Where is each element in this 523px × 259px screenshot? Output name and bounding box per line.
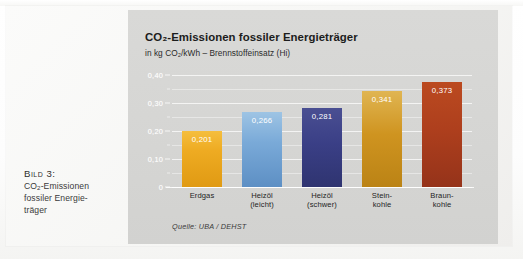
category-label-line: Heizöl — [234, 191, 290, 200]
x-axis-category-label: Stein-kohle — [354, 191, 410, 209]
category-label-line: kohle — [354, 200, 410, 209]
bar-value-label: 0,281 — [302, 112, 342, 121]
bar-fill: 0,341 — [362, 91, 402, 187]
y-axis-tick-label: 0,40 — [148, 70, 163, 79]
bar: 0,201 — [182, 131, 222, 187]
bar-fill: 0,201 — [182, 131, 222, 187]
bar-series: 0,2010,2660,2810,3410,373 — [172, 69, 472, 187]
category-label-line: Braun- — [414, 191, 470, 200]
x-axis-category-label: Heizöl(leicht) — [234, 191, 290, 209]
y-axis-tick-mark — [165, 102, 170, 103]
bar-value-label: 0,201 — [182, 135, 222, 144]
bar: 0,341 — [362, 91, 402, 187]
figure-caption-heading: Bild 3: — [24, 168, 128, 180]
y-axis-tick-label: 0,30 — [148, 98, 163, 107]
y-axis-tick-mark-minor — [167, 88, 170, 89]
y-axis-tick-label: 0,20 — [148, 126, 163, 135]
figure-caption-line-1: CO2-Emissionen — [24, 181, 128, 194]
category-label-line: (leicht) — [234, 200, 290, 209]
bar: 0,266 — [242, 112, 282, 187]
bar-fill: 0,266 — [242, 112, 282, 187]
chart-title: CO₂-Emissionen fossiler Energieträger — [145, 31, 358, 43]
category-label-line: Heizöl — [294, 191, 350, 200]
bar-value-label: 0,341 — [362, 95, 402, 104]
bar: 0,281 — [302, 108, 342, 187]
y-axis-tick-mark — [165, 158, 170, 159]
scanned-page: Bild 3: CO2-Emissionen fossiler Energie-… — [0, 0, 523, 259]
y-axis-tick-label: 0,10 — [148, 154, 163, 163]
category-label-line: Erdgas — [174, 191, 230, 200]
bar-fill: 0,281 — [302, 108, 342, 187]
bar: 0,373 — [422, 82, 462, 187]
x-axis-category-label: Braun-kohle — [414, 191, 470, 209]
caption-co-text: CO — [24, 181, 37, 191]
y-axis-tick-mark-minor — [167, 144, 170, 145]
y-axis: 00,100,200,300,40 — [128, 69, 170, 187]
category-label-line: kohle — [414, 200, 470, 209]
caption-emissionen-text: -Emissionen — [41, 181, 89, 191]
x-axis-categories: ErdgasHeizöl(leicht)Heizöl(schwer)Stein-… — [172, 191, 472, 219]
y-axis-tick-mark — [165, 74, 170, 75]
y-axis-tick-mark-minor — [167, 116, 170, 117]
x-axis-baseline — [166, 187, 474, 188]
x-axis-category-label: Erdgas — [174, 191, 230, 200]
y-axis-tick-mark-minor — [167, 172, 170, 173]
bar-value-label: 0,373 — [422, 86, 462, 95]
chart-source-note: Quelle: UBA / DEHST — [172, 222, 247, 231]
bar-fill: 0,373 — [422, 82, 462, 187]
bar-value-label: 0,266 — [242, 116, 282, 125]
figure-caption: Bild 3: CO2-Emissionen fossiler Energie-… — [24, 168, 128, 216]
chart-subtitle: in kg CO₂/kWh – Brennstoffeinsatz (Hi) — [145, 48, 290, 58]
chart-panel: CO₂-Emissionen fossiler Energieträger in… — [128, 10, 498, 244]
figure-caption-line-3: träger — [24, 205, 128, 217]
figure-caption-line-2: fossiler Energie- — [24, 193, 128, 205]
y-axis-tick-label: 0 — [159, 183, 163, 192]
category-label-line: (schwer) — [294, 200, 350, 209]
y-axis-tick-mark — [165, 130, 170, 131]
category-label-line: Stein- — [354, 191, 410, 200]
x-axis-category-label: Heizöl(schwer) — [294, 191, 350, 209]
